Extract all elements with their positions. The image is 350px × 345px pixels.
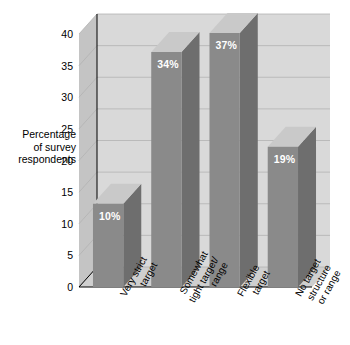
bar-value-label-0: 10% (99, 210, 121, 222)
bar-value-label-1: 34% (157, 58, 179, 70)
bar-chart: Percentage of survey respondents 0 5 10 … (0, 0, 350, 345)
bar-value-label-2: 37% (215, 39, 237, 51)
bar-value-label-3: 19% (274, 153, 296, 165)
